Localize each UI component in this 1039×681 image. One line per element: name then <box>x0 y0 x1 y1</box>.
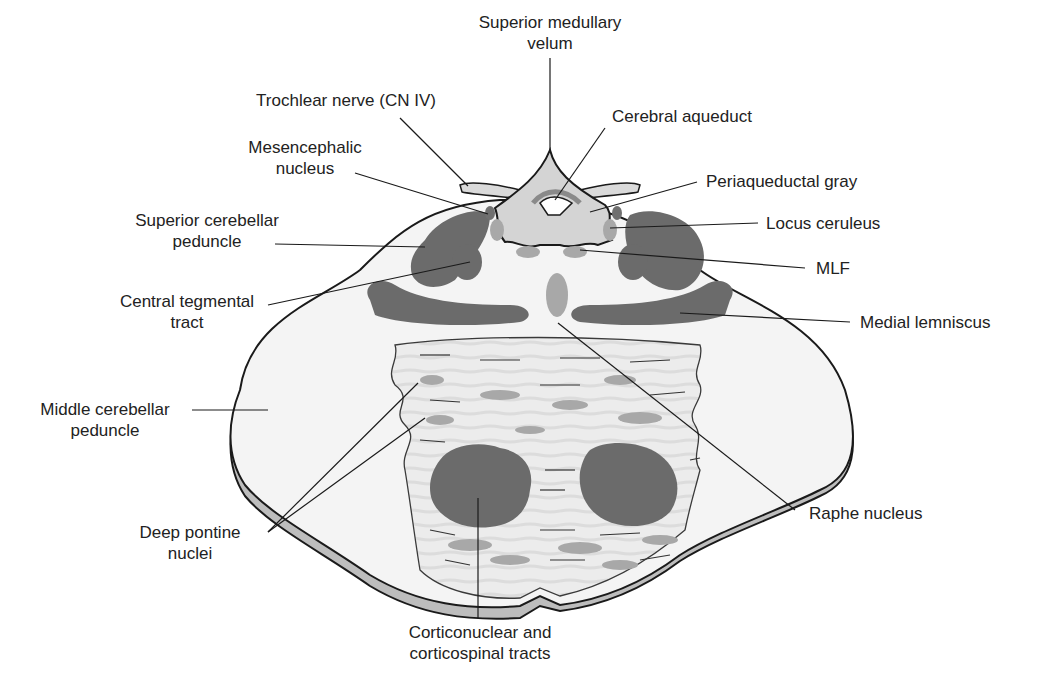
label-cerebral-aqueduct: Cerebral aqueduct <box>612 106 752 127</box>
label-deep-pontine-nuclei: Deep pontine nuclei <box>120 522 260 564</box>
mlf-right <box>563 246 587 258</box>
locus-ceruleus-right <box>603 219 617 241</box>
central-tegmental-tract-right <box>618 244 648 280</box>
corticospinal-tract-left <box>430 444 531 527</box>
label-locus-ceruleus: Locus ceruleus <box>766 213 880 234</box>
raphe-nucleus <box>546 273 568 317</box>
central-tegmental-tract-left <box>452 244 482 280</box>
label-mesencephalic-nucleus: Mesencephalic nucleus <box>235 137 375 179</box>
label-medial-lemniscus: Medial lemniscus <box>860 312 990 333</box>
mlf-left <box>516 246 540 258</box>
pons-illustration <box>0 0 1039 681</box>
mesencephalic-nucleus-right <box>612 206 622 220</box>
pons-cross-section-diagram: Superior medullary velum Trochlear nerve… <box>0 0 1039 681</box>
label-raphe-nucleus: Raphe nucleus <box>809 503 922 524</box>
label-mlf: MLF <box>816 258 850 279</box>
label-trochlear-nerve: Trochlear nerve (CN IV) <box>236 90 456 111</box>
label-superior-cerebellar-peduncle: Superior cerebellar peduncle <box>112 210 302 252</box>
locus-ceruleus-left <box>490 219 504 241</box>
label-middle-cerebellar-peduncle: Middle cerebellar peduncle <box>20 399 190 441</box>
label-superior-medullary-velum: Superior medullary velum <box>455 12 645 54</box>
label-periaqueductal-gray: Periaqueductal gray <box>706 171 857 192</box>
label-corticonuclear-corticospinal-tracts: Corticonuclear and corticospinal tracts <box>375 622 585 664</box>
label-central-tegmental-tract: Central tegmental tract <box>102 291 272 333</box>
